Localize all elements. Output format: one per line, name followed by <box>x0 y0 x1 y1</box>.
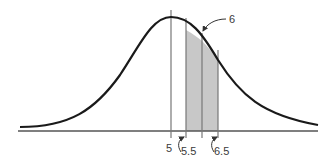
diagram-canvas: 6 5 5.5 6.5 <box>0 0 334 167</box>
callout-6-arrow <box>203 19 226 31</box>
normal-curve <box>20 17 318 127</box>
label-5-5: 5.5 <box>181 145 196 157</box>
normal-curve-diagram: 6 5 5.5 6.5 <box>0 0 334 167</box>
label-5: 5 <box>166 142 172 154</box>
label-6-5: 6.5 <box>214 145 229 157</box>
label-6: 6 <box>229 13 235 25</box>
